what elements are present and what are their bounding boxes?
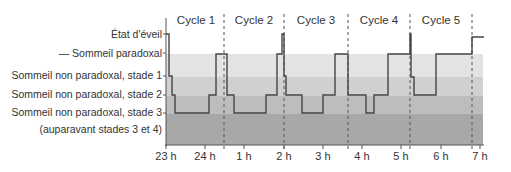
y-label-paradoxal: — Sommeil paradoxal — [59, 47, 162, 59]
x-label-5h: 5 h — [393, 150, 408, 162]
band-stade2 — [166, 96, 483, 114]
x-label-1h: 1 h — [236, 150, 251, 162]
x-label-2h: 2 h — [276, 150, 291, 162]
x-label-24h: 24 h — [194, 150, 215, 162]
cycle-label-3: Cycle 3 — [297, 14, 335, 26]
x-ticks — [166, 145, 480, 149]
band-stade3 — [166, 114, 483, 145]
x-label-4h: 4 h — [354, 150, 369, 162]
y-label-eveil: État d'éveil — [111, 28, 162, 40]
y-label-stade2: Sommeil non paradoxal, stade 2 — [11, 88, 162, 100]
y-label-stade3: Sommeil non paradoxal, stade 3 — [11, 106, 162, 118]
x-label-3h: 3 h — [315, 150, 330, 162]
x-label-23h: 23 h — [155, 150, 176, 162]
cycle-label-4: Cycle 4 — [360, 14, 398, 26]
y-label-stade3-note: (auparavant stades 3 et 4) — [39, 123, 162, 135]
cycle-label-1: Cycle 1 — [177, 14, 215, 26]
x-label-6h: 6 h — [433, 150, 448, 162]
y-label-stade1: Sommeil non paradoxal, stade 1 — [11, 69, 162, 81]
cycle-label-5: Cycle 5 — [422, 14, 460, 26]
x-label-7h: 7 h — [472, 150, 487, 162]
cycle-label-2: Cycle 2 — [235, 14, 273, 26]
